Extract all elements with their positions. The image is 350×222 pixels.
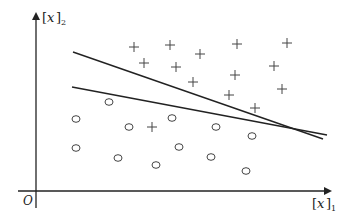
plus-point: [250, 103, 260, 113]
plus-point: [188, 77, 198, 87]
circle-point: [114, 155, 122, 162]
plus-point: [269, 61, 279, 71]
circle-point: [72, 145, 80, 152]
svg-text:x: x: [47, 10, 55, 25]
plus-point: [232, 39, 242, 49]
plus-point: [129, 42, 139, 52]
classifier-diagram: [ x ] 2 [ x ] 1 O: [0, 0, 350, 222]
separating-line-2: [72, 87, 327, 135]
plus-point: [224, 90, 234, 100]
circle-point: [207, 154, 215, 161]
plus-point: [277, 84, 287, 94]
origin-label: O: [23, 194, 33, 208]
circle-point: [168, 115, 176, 122]
circle-point: [152, 162, 160, 169]
plus-point: [195, 49, 205, 59]
positive-points: [129, 38, 292, 132]
plus-point: [139, 58, 149, 68]
circle-point: [125, 124, 133, 131]
plus-point: [147, 122, 157, 132]
svg-text:1: 1: [331, 204, 336, 213]
svg-text:x: x: [317, 196, 325, 211]
separating-lines: [72, 52, 327, 139]
circle-point: [212, 124, 220, 131]
y-axis-label: [ x ] 2: [42, 10, 66, 27]
plus-point: [171, 62, 181, 72]
x-axis-label: [ x ] 1: [312, 196, 336, 213]
circle-point: [175, 144, 183, 151]
plus-point: [165, 40, 175, 50]
svg-text:2: 2: [61, 18, 66, 27]
circle-point: [242, 168, 250, 175]
plus-point: [282, 38, 292, 48]
circle-point: [72, 116, 80, 123]
circle-point: [248, 133, 256, 140]
plus-point: [230, 70, 240, 80]
circle-point: [105, 99, 113, 106]
negative-points: [72, 99, 256, 175]
separating-line-1: [73, 52, 323, 139]
